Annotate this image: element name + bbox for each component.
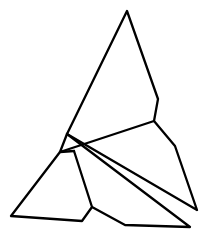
lower-left-path [11,151,92,221]
outer-right-path [67,11,197,210]
polygon-line-drawing [0,0,207,242]
line-drawing-canvas [0,0,207,242]
lower-right-path [67,134,190,227]
cross-band [60,121,154,152]
